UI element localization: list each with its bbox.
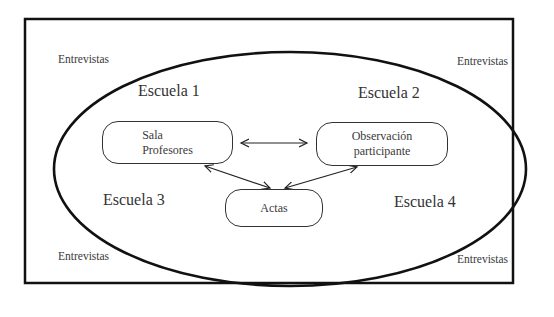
escuela-2-label: Escuela 2: [358, 84, 420, 102]
diagram-shapes: [0, 0, 554, 317]
edge-sala-actas: [205, 166, 270, 188]
node-sala-profesores: Sala Profesores: [102, 121, 233, 164]
escuela-1-label: Escuela 1: [138, 82, 200, 100]
edge-observacion-actas: [285, 167, 357, 188]
node-actas: Actas: [225, 189, 323, 227]
escuela-3-label: Escuela 3: [103, 191, 165, 209]
node-text-line: Observación: [352, 129, 413, 144]
escuela-4-label: Escuela 4: [394, 193, 456, 211]
node-text-line: Sala: [142, 128, 193, 143]
node-text-line: Actas: [260, 201, 287, 216]
node-text-line: Profesores: [142, 143, 193, 158]
entrevistas-bottom-right: Entrevistas: [457, 253, 508, 265]
entrevistas-bottom-left: Entrevistas: [58, 250, 109, 262]
node-observacion-participante: Observación participante: [316, 122, 448, 166]
entrevistas-top-right: Entrevistas: [457, 55, 508, 67]
node-text-line: participante: [354, 144, 411, 159]
entrevistas-top-left: Entrevistas: [58, 53, 109, 65]
schools-ellipse: [54, 52, 526, 286]
diagram-canvas: Entrevistas Entrevistas Entrevistas Entr…: [0, 0, 554, 317]
